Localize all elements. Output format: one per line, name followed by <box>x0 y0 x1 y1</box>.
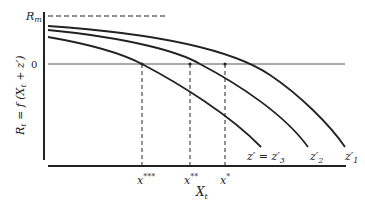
x-marker-3star: x*** <box>137 172 155 187</box>
diagram: Rm 0 Rt = f (Xt + z′) x*** x** x* Xt z′ … <box>0 0 365 204</box>
x-axis-title: Xt <box>195 185 209 201</box>
curve-label-z1: z′1 <box>344 150 358 165</box>
curve-z3 <box>48 37 261 147</box>
x-marker-1star: x* <box>220 172 230 187</box>
zero-label: 0 <box>31 59 37 70</box>
curve-label-z2: z′2 <box>309 150 323 165</box>
y-axis-title: Rt = f (Xt + z′) <box>14 56 28 136</box>
curve-label-z3: z′ = z′3 <box>246 150 285 165</box>
curve-z1 <box>48 26 345 147</box>
curve-z2 <box>48 30 308 147</box>
rm-label: Rm <box>25 10 42 24</box>
